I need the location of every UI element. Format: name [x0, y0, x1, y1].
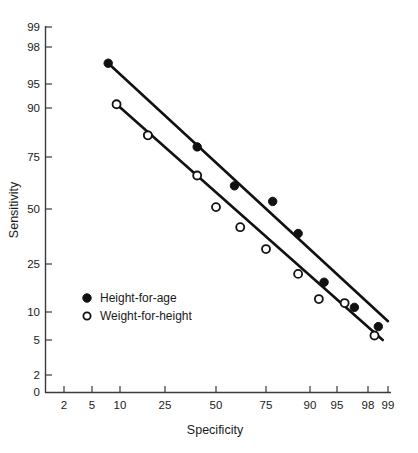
y-tick-label: 2 [34, 369, 40, 381]
y-tick-label: 25 [27, 258, 40, 270]
x-tick-label: 25 [159, 399, 172, 411]
x-axis-ticks: 251025507590959899 [61, 386, 395, 411]
y-tick-label: 95 [27, 78, 40, 90]
data-point [268, 197, 276, 205]
regression-line [108, 63, 388, 321]
data-point [230, 182, 238, 190]
data-point [262, 245, 270, 253]
x-axis-title: Specificity [187, 423, 244, 437]
data-point [315, 295, 323, 303]
chart-canvas: 0251025507590959899 251025507590959899 H… [0, 0, 418, 453]
x-tick-label: 50 [210, 399, 223, 411]
sroc-chart: 0251025507590959899 251025507590959899 H… [0, 0, 418, 453]
data-point [374, 322, 382, 330]
y-tick-label: 0 [34, 386, 40, 398]
x-tick-label: 75 [260, 399, 273, 411]
data-point [236, 223, 244, 231]
data-point [370, 332, 378, 340]
data-point [294, 229, 302, 237]
y-tick-label: 5 [34, 334, 40, 346]
data-point [350, 303, 358, 311]
chart-legend: Height-for-ageWeight-for-height [83, 291, 193, 323]
x-tick-label: 2 [61, 399, 67, 411]
x-tick-label: 90 [304, 399, 317, 411]
data-point [193, 143, 201, 151]
data-point [294, 270, 302, 278]
y-tick-label: 98 [27, 41, 40, 53]
data-point [144, 131, 152, 139]
data-point [212, 203, 220, 211]
x-tick-label: 98 [362, 399, 375, 411]
y-tick-label: 50 [27, 203, 40, 215]
data-point [193, 171, 201, 179]
y-axis-title: Sensitivity [7, 181, 21, 238]
series-height-for-age [108, 63, 388, 321]
y-tick-label: 90 [27, 102, 40, 114]
x-tick-label: 99 [382, 399, 395, 411]
y-axis-ticks: 0251025507590959899 [27, 21, 52, 398]
data-point [320, 278, 328, 286]
y-tick-label: 99 [27, 21, 40, 33]
y-tick-label: 10 [27, 306, 40, 318]
data-point [113, 100, 121, 108]
legend-label: Height-for-age [100, 291, 177, 305]
data-point [104, 59, 112, 67]
y-tick-label: 75 [27, 151, 40, 163]
data-point [341, 299, 349, 307]
x-tick-label: 10 [114, 399, 127, 411]
x-tick-label: 5 [89, 399, 95, 411]
x-tick-label: 95 [331, 399, 344, 411]
legend-marker [83, 312, 90, 319]
legend-marker [83, 294, 91, 302]
legend-label: Weight-for-height [100, 309, 192, 323]
